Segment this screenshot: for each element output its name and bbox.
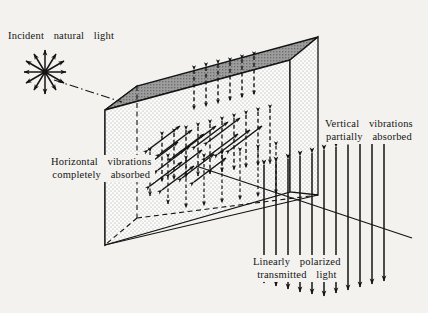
label-transmitted-light: Linearly polarized transmitted light [250, 255, 344, 282]
label-vertical-vibrations: Vertical vibrations partially absorbed [322, 117, 416, 144]
slab-right-face [290, 37, 318, 195]
label-incident-natural-light: Incident natural light [8, 30, 114, 43]
starburst-center [42, 69, 47, 74]
label-horizontal-vibrations: Horizontal vibrations completely absorbe… [48, 155, 155, 182]
incident-ray [54, 80, 122, 102]
polarization-figure: Incident natural light Horizontal vibrat… [0, 0, 428, 313]
